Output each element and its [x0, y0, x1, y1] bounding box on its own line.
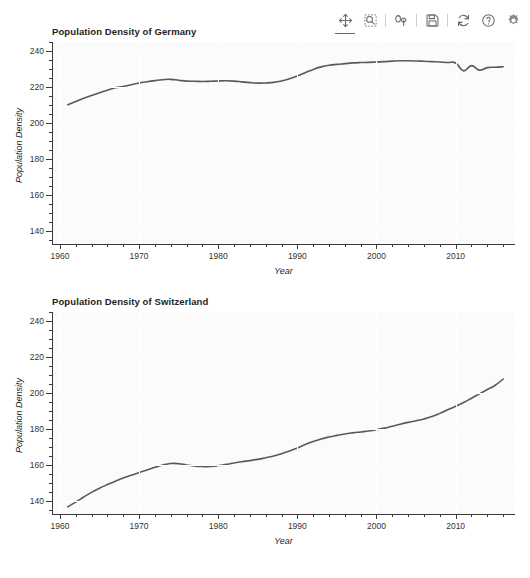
- x-axis-tick-label: 1970: [130, 251, 149, 261]
- x-axis-tick-label: 1980: [209, 251, 228, 261]
- x-axis-tick-label: 2000: [367, 251, 386, 261]
- gridline-horizontal: [52, 393, 515, 394]
- y-axis-tick-label: 160: [30, 460, 44, 470]
- y-axis-tick-label: 140: [30, 496, 44, 506]
- page-title: Population Density of Switzerland: [52, 296, 208, 307]
- gridline-horizontal: [52, 159, 515, 160]
- page-title: Population Density of Germany: [52, 26, 196, 37]
- gridline-vertical: [60, 312, 61, 514]
- gridline-horizontal: [52, 87, 515, 88]
- y-axis-tick-label: 200: [30, 388, 44, 398]
- gridline-horizontal: [52, 51, 515, 52]
- plot-area-switzerland[interactable]: 1401601802002202401960197019801990200020…: [52, 312, 515, 514]
- y-axis-tick-label: 240: [30, 316, 44, 326]
- y-axis-tick-label: 180: [30, 154, 44, 164]
- toolbar-divider: [385, 14, 386, 27]
- gridline-vertical: [376, 42, 377, 244]
- x-axis-tick-label: 2000: [367, 521, 386, 531]
- gridline-vertical: [218, 312, 219, 514]
- y-axis-line: [52, 312, 53, 514]
- plot-area-germany[interactable]: 1401601802002202401960197019801990200020…: [52, 42, 515, 244]
- chart-panel-switzerland: Population Density of Switzerland 140160…: [0, 296, 530, 568]
- gridline-horizontal: [52, 501, 515, 502]
- gridline-horizontal: [52, 357, 515, 358]
- gridline-vertical: [297, 312, 298, 514]
- y-axis-tick-label: 180: [30, 424, 44, 434]
- x-axis-title: Year: [274, 536, 293, 546]
- x-axis-line: [52, 244, 515, 245]
- y-axis-tick-label: 160: [30, 190, 44, 200]
- x-axis-tick-label: 2010: [446, 521, 465, 531]
- y-axis-tick-label: 240: [30, 46, 44, 56]
- y-axis-title: Population Density: [14, 108, 24, 183]
- y-axis-tick-label: 220: [30, 82, 44, 92]
- gridline-horizontal: [52, 321, 515, 322]
- chart-panel-germany: Population Density of Germany 1401601802…: [0, 26, 530, 288]
- x-axis-title: Year: [274, 266, 293, 276]
- gridline-vertical: [376, 312, 377, 514]
- x-axis-tick-label: 1960: [50, 251, 69, 261]
- gridline-horizontal: [52, 429, 515, 430]
- series-line-germany: [52, 42, 515, 244]
- gridline-vertical: [139, 42, 140, 244]
- gridline-vertical: [139, 312, 140, 514]
- y-axis-tick-label: 220: [30, 352, 44, 362]
- toolbar-divider: [447, 14, 448, 27]
- data-series-line: [68, 61, 503, 105]
- x-axis-tick-label: 1970: [130, 521, 149, 531]
- data-series-line: [68, 379, 503, 507]
- y-axis-line: [52, 42, 53, 244]
- x-axis-tick-label: 2010: [446, 251, 465, 261]
- x-axis-tick-label: 1960: [50, 521, 69, 531]
- gridline-horizontal: [52, 195, 515, 196]
- x-axis-line: [52, 514, 515, 515]
- gridline-horizontal: [52, 465, 515, 466]
- gridline-vertical: [218, 42, 219, 244]
- toolbar-divider: [416, 14, 417, 27]
- y-axis-tick-label: 140: [30, 226, 44, 236]
- y-axis-tick-label: 200: [30, 118, 44, 128]
- gridline-vertical: [297, 42, 298, 244]
- x-axis-tick-label: 1980: [209, 521, 228, 531]
- x-axis-tick-label: 1990: [288, 521, 307, 531]
- gridline-vertical: [456, 312, 457, 514]
- gridline-horizontal: [52, 231, 515, 232]
- x-axis-tick-label: 1990: [288, 251, 307, 261]
- gridline-vertical: [456, 42, 457, 244]
- y-axis-title: Population Density: [14, 378, 24, 453]
- series-line-switzerland: [52, 312, 515, 514]
- gridline-vertical: [60, 42, 61, 244]
- gridline-horizontal: [52, 123, 515, 124]
